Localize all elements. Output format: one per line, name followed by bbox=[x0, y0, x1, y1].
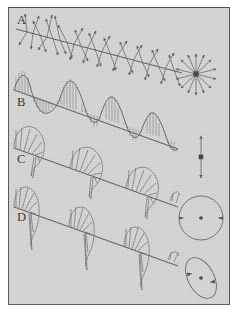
panel-d-axis bbox=[14, 207, 178, 266]
panel-label-b: B bbox=[17, 95, 26, 109]
panel-label-a: A bbox=[17, 13, 26, 27]
panel-a-transverse-arrows bbox=[19, 14, 180, 86]
panel-c-axis bbox=[14, 148, 178, 207]
circular-end-view-center bbox=[199, 216, 203, 220]
elliptical-end-view-center bbox=[199, 276, 203, 280]
panel-label-d: D bbox=[17, 210, 26, 224]
panel-a-unpolarized bbox=[16, 14, 182, 86]
figure-root: A B C D bbox=[0, 0, 245, 322]
panel-b-sine bbox=[14, 75, 178, 150]
panel-b-linear bbox=[14, 71, 178, 151]
panel-label-c: C bbox=[17, 152, 26, 166]
linear-end-view-center bbox=[199, 155, 204, 160]
unpolarized-end-view-center bbox=[193, 71, 198, 76]
polarization-diagram: A B C D bbox=[0, 0, 245, 322]
panel-b-axis bbox=[14, 90, 178, 149]
